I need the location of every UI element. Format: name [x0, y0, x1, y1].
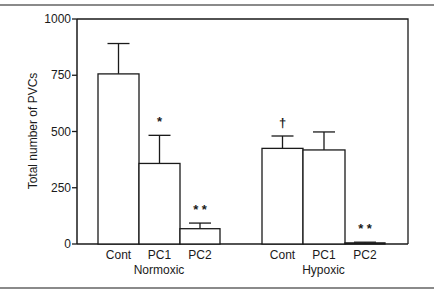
bar-rect [262, 148, 303, 244]
bar-rect [98, 74, 139, 244]
bars: ** *†* * [98, 44, 385, 244]
y-tick-label: 500 [51, 125, 71, 139]
y-tick-label: 250 [51, 181, 71, 195]
significance-marker: * * [358, 221, 373, 236]
bar-normoxic-pc1: * [139, 114, 180, 244]
group-label-hypoxic: Hypoxic [302, 263, 345, 277]
x-category-label: PC2 [188, 248, 212, 262]
bar-rect [303, 150, 345, 244]
y-axis-title: Total number of PVCs [26, 73, 40, 190]
significance-marker: † [279, 115, 286, 130]
x-axis-labels: ContPC1PC2NormoxicContPC1PC2Hypoxic [106, 248, 377, 277]
significance-marker: * [157, 114, 163, 129]
group-label-normoxic: Normoxic [134, 263, 185, 277]
bar-hypoxic-cont: † [262, 115, 303, 244]
y-tick-label: 1000 [44, 12, 71, 26]
bar-rect [345, 243, 385, 244]
bar-chart: 02505007501000 ** *†* * ContPC1PC2Normox… [0, 0, 434, 298]
x-category-label: PC2 [353, 248, 377, 262]
bar-hypoxic-pc2: * * [345, 221, 385, 244]
x-category-label: Cont [270, 248, 296, 262]
bar-rect [180, 229, 220, 244]
y-tick-label: 0 [64, 237, 71, 251]
bar-rect [139, 163, 180, 244]
x-category-label: Cont [106, 248, 132, 262]
y-axis: 02505007501000 [44, 12, 77, 251]
bar-normoxic-cont [98, 44, 139, 244]
significance-marker: * * [193, 202, 208, 217]
x-category-label: PC1 [312, 248, 336, 262]
x-category-label: PC1 [148, 248, 172, 262]
y-tick-label: 750 [51, 68, 71, 82]
bar-hypoxic-pc1 [303, 132, 345, 244]
bar-normoxic-pc2: * * [180, 202, 220, 244]
